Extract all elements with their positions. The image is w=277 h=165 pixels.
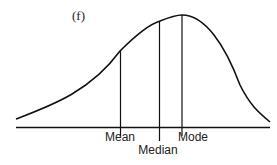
panel-label: (f) <box>72 8 85 23</box>
mean-label: Mean <box>105 130 135 144</box>
distribution-curve <box>16 15 270 122</box>
skewed-distribution-diagram: (f) Mean Median Mode <box>0 0 277 165</box>
median-label: Median <box>138 143 177 157</box>
mode-label: Mode <box>178 130 208 144</box>
